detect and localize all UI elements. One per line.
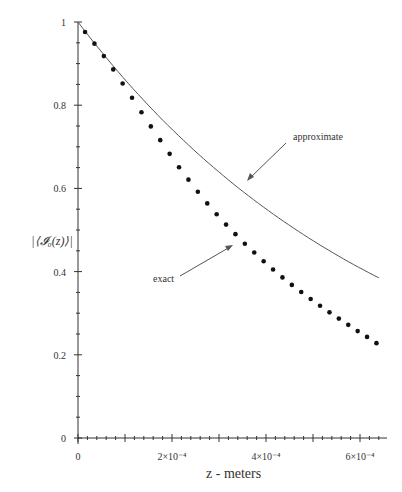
exact-dot	[271, 267, 276, 272]
y-tick-label: 0	[61, 433, 66, 444]
arrow-head	[225, 245, 233, 251]
exact-dot	[158, 138, 163, 143]
x-tick-label: 0	[76, 451, 81, 462]
exact-dot	[111, 67, 116, 72]
exact-dot	[92, 41, 97, 46]
exact-dot	[299, 290, 304, 295]
exact-dot	[196, 189, 201, 194]
exact-dot	[186, 177, 191, 182]
exact-dot	[243, 241, 248, 246]
exact-dot	[327, 310, 332, 315]
exact-dot	[252, 250, 257, 255]
exact-dot	[139, 110, 144, 115]
y-tick-label: 1	[61, 17, 66, 28]
exact-dot	[280, 275, 285, 280]
approximate-curve	[78, 22, 379, 278]
exact-dot	[167, 152, 172, 157]
annotation-approximate: approximate	[293, 131, 344, 142]
y-tick-label: 0.2	[54, 350, 67, 361]
approximate-arrow	[250, 143, 286, 178]
x-tick-label: 6×10⁻⁴	[345, 451, 375, 462]
annotation-exact: exact	[153, 273, 174, 284]
exact-dot	[308, 297, 313, 302]
y-tick-label: 0.8	[54, 100, 67, 111]
exact-dot	[318, 303, 323, 308]
exact-dot	[205, 201, 210, 206]
x-tick-label: 4×10⁻⁴	[251, 451, 281, 462]
exact-dot	[355, 329, 360, 334]
y-tick-label: 0.4	[54, 267, 67, 278]
exact-dot	[214, 212, 219, 217]
exact-dot	[290, 283, 295, 288]
exact-dot	[374, 341, 379, 346]
exact-dot	[102, 54, 107, 59]
exact-dot	[346, 323, 351, 328]
exact-dot	[224, 222, 229, 227]
exact-dot	[130, 95, 135, 100]
y-tick-label: 0.6	[54, 183, 67, 194]
exact-dot	[83, 30, 88, 35]
exact-dot	[261, 259, 266, 264]
exact-dot	[149, 124, 154, 129]
x-axis-label: z - meters	[206, 466, 261, 482]
exact-dot	[337, 316, 342, 321]
arrow-head	[247, 173, 254, 181]
exact-dot	[177, 165, 182, 170]
chart: 02×10⁻⁴4×10⁻⁴6×10⁻⁴00.20.40.60.81|⟨𝓘₀(z)…	[0, 0, 402, 492]
exact-dot	[120, 81, 125, 86]
exact-arrow	[180, 247, 230, 276]
x-tick-label: 2×10⁻⁴	[157, 451, 187, 462]
y-axis-label: |⟨𝓘₀(z)⟩|	[31, 234, 72, 248]
exact-dot	[365, 335, 370, 340]
exact-dot	[233, 232, 238, 237]
